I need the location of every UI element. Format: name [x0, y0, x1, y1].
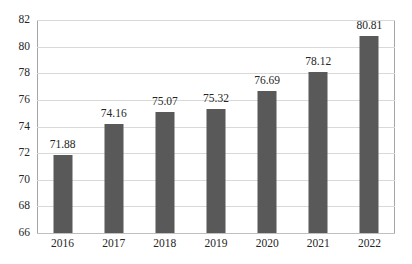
bar-2017[interactable]: [104, 124, 123, 233]
bar-2016[interactable]: [53, 155, 72, 233]
y-tick-label: 80: [2, 41, 30, 53]
y-tick-label: 66: [2, 227, 30, 239]
bar-value-label: 74.16: [101, 108, 127, 120]
bars-layer: 71.8874.1675.0775.3276.6978.1280.81: [37, 20, 395, 233]
bar-value-label: 80.81: [356, 20, 382, 32]
y-tick-label: 74: [2, 121, 30, 133]
x-axis: 2016201720182019202020212022: [37, 238, 395, 258]
bar-2020[interactable]: [258, 91, 277, 233]
x-tick-label-2017: 2017: [88, 238, 139, 250]
y-tick-label: 72: [2, 147, 30, 159]
bar-2022[interactable]: [360, 36, 379, 233]
bar-slot: 75.07: [139, 20, 190, 233]
x-tick-label-2016: 2016: [37, 238, 88, 250]
bar-value-label: 75.07: [152, 96, 178, 108]
y-tick-label: 68: [2, 200, 30, 212]
y-tick-label: 76: [2, 94, 30, 106]
bar-chart: 828078767472706866 71.8874.1675.0775.327…: [0, 0, 412, 264]
bar-slot: 75.32: [190, 20, 241, 233]
x-tick-label-2019: 2019: [190, 238, 241, 250]
bar-slot: 78.12: [293, 20, 344, 233]
bar-value-label: 76.69: [254, 75, 280, 87]
y-tick-label: 78: [2, 67, 30, 79]
x-tick-label-2020: 2020: [242, 238, 293, 250]
y-tick-label: 82: [2, 14, 30, 26]
bar-value-label: 78.12: [305, 56, 331, 68]
gridline-66: [37, 233, 395, 234]
bar-slot: 71.88: [37, 20, 88, 233]
bar-value-label: 71.88: [50, 139, 76, 151]
bar-slot: 74.16: [88, 20, 139, 233]
bar-value-label: 75.32: [203, 93, 229, 105]
bar-2019[interactable]: [206, 109, 225, 233]
bar-slot: 76.69: [242, 20, 293, 233]
x-tick-label-2022: 2022: [344, 238, 395, 250]
bar-slot: 80.81: [344, 20, 395, 233]
x-tick-label-2021: 2021: [293, 238, 344, 250]
x-tick-label-2018: 2018: [139, 238, 190, 250]
bar-2021[interactable]: [309, 72, 328, 233]
bar-2018[interactable]: [155, 112, 174, 233]
y-tick-label: 70: [2, 174, 30, 186]
